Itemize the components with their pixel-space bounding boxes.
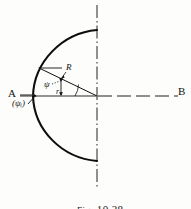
label-angle-psi: ψ bbox=[44, 80, 50, 89]
label-axis-right: B bbox=[178, 86, 185, 97]
label-incident-angle: (ψᵢ) bbox=[12, 99, 25, 108]
figure-caption-prefix: Fig. bbox=[77, 205, 94, 209]
figure-caption-number: 10.28. bbox=[97, 203, 127, 209]
figure-drawing-canvas bbox=[0, 0, 191, 209]
label-radius-major: R bbox=[66, 63, 72, 72]
figure-caption: Fig. 10.28. bbox=[0, 191, 191, 209]
radius-r-arrowhead-top bbox=[59, 78, 63, 82]
psi-leader-dotted bbox=[52, 81, 60, 84]
figure-10-28: A B (ψᵢ) R ψ r Fig. 10.28. bbox=[0, 0, 191, 209]
label-radius-minor: r bbox=[56, 88, 59, 96]
